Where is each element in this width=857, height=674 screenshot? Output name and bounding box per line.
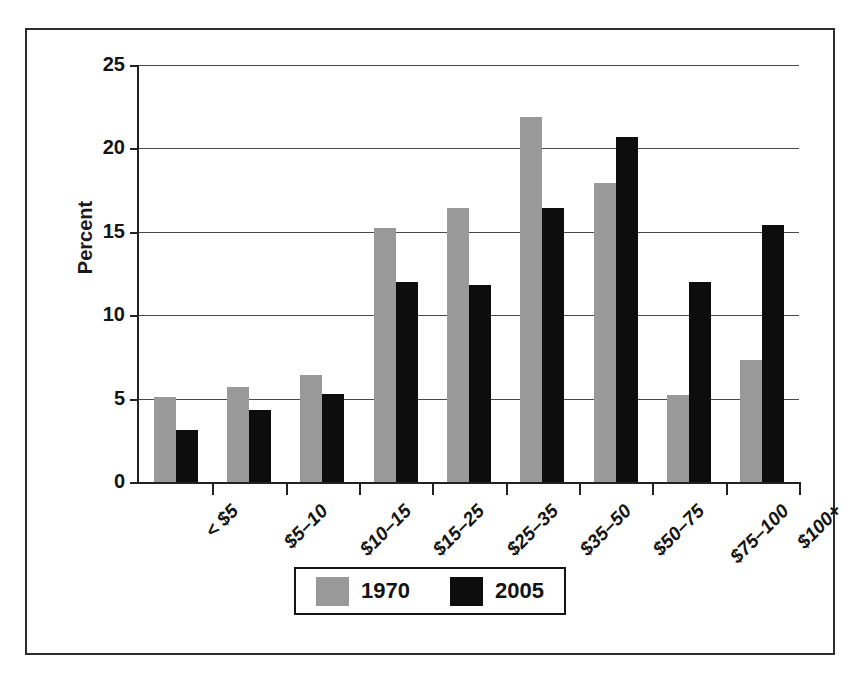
x-axis-label--75-100: $75–100 — [725, 500, 793, 568]
bar-2005--25-35 — [469, 285, 491, 482]
y-tick-10 — [130, 315, 139, 317]
x-axis-label--5: < $5 — [201, 500, 243, 542]
x-tick-5 — [506, 482, 508, 495]
y-tick-label-20: 20 — [103, 136, 125, 159]
x-tick-1 — [212, 482, 214, 495]
legend-label-1970: 1970 — [361, 578, 410, 604]
bar-1970--75-100 — [667, 395, 689, 482]
bar-2005--5-10 — [249, 410, 271, 482]
y-tick-20 — [130, 148, 139, 150]
y-tick-label-10: 10 — [103, 303, 125, 326]
gridline-25 — [139, 65, 799, 66]
y-tick-label-5: 5 — [114, 387, 125, 410]
bar-1970--5-10 — [227, 387, 249, 482]
y-tick-label-25: 25 — [103, 53, 125, 76]
y-tick-25 — [130, 65, 139, 67]
y-tick-label-15: 15 — [103, 220, 125, 243]
x-axis-label--15-25: $15–25 — [429, 500, 489, 560]
bar-1970--50-75 — [594, 183, 616, 482]
y-tick-15 — [130, 232, 139, 234]
legend-entry-2005: 2005 — [450, 577, 544, 606]
x-tick-6 — [579, 482, 581, 495]
x-axis-label--35-50: $35–50 — [576, 500, 636, 560]
bar-1970--25-35 — [447, 208, 469, 482]
bar-2005--50-75 — [616, 137, 638, 482]
legend-entry-1970: 1970 — [316, 577, 410, 606]
bar-2005--15-25 — [396, 282, 418, 482]
y-tick-0 — [130, 482, 139, 484]
gridline-20 — [139, 148, 799, 149]
bar-1970--15-25 — [374, 228, 396, 482]
bar-1970--5 — [154, 397, 176, 482]
figure-frame: Percent 0510152025 < $5$5–10$10–15$15–25… — [25, 28, 835, 655]
gridline-15 — [139, 232, 799, 233]
y-tick-label-0: 0 — [114, 470, 125, 493]
plot-area: 0510152025 < $5$5–10$10–15$15–25$25–35$3… — [137, 65, 799, 484]
bar-2005--5 — [176, 430, 198, 482]
bar-2005--100- — [762, 225, 784, 482]
bar-1970--100- — [740, 360, 762, 482]
x-axis-label--5-10: $5–10 — [279, 500, 332, 553]
x-axis-label--25-35: $25–35 — [502, 500, 562, 560]
x-axis-label--50-75: $50–75 — [649, 500, 709, 560]
x-tick-3 — [359, 482, 361, 495]
x-tick-end — [799, 482, 801, 495]
y-axis-title: Percent — [74, 178, 97, 298]
x-tick-4 — [432, 482, 434, 495]
x-tick-8 — [726, 482, 728, 495]
bar-1970--35-50 — [520, 117, 542, 482]
y-tick-5 — [130, 399, 139, 401]
legend-swatch-2005 — [450, 577, 483, 606]
bar-chart: Percent 0510152025 < $5$5–10$10–15$15–25… — [27, 30, 837, 657]
bar-1970--10-15 — [300, 375, 322, 482]
legend-label-2005: 2005 — [495, 578, 544, 604]
legend-swatch-1970 — [316, 577, 349, 606]
bar-2005--75-100 — [689, 282, 711, 482]
x-axis-label--10-15: $10–15 — [356, 500, 416, 560]
chart-legend: 19702005 — [294, 567, 566, 615]
x-tick-2 — [286, 482, 288, 495]
x-axis-label--100-: $100+ — [793, 500, 846, 553]
bar-2005--35-50 — [542, 208, 564, 482]
bar-2005--10-15 — [322, 394, 344, 482]
x-tick-7 — [652, 482, 654, 495]
